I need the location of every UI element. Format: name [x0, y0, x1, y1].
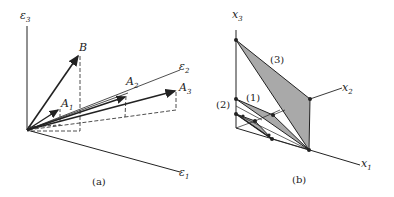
figure-a-labels: ε3 ε2 ε1 B A1 A2 A3 (a) — [20, 9, 192, 187]
label-x3: x3 — [232, 8, 243, 23]
label-x2: x2 — [342, 81, 353, 96]
label-A3: A3 — [178, 81, 192, 96]
label-e3: ε3 — [20, 9, 31, 24]
label-B: B — [78, 41, 87, 54]
vertex — [270, 137, 274, 141]
axis-x2 — [310, 88, 342, 99]
label-region-1: (1) — [246, 92, 260, 103]
label-e1: ε1 — [179, 166, 189, 181]
vertex — [241, 114, 244, 117]
diagram-canvas: ε3 ε2 ε1 B A1 A2 A3 (a) — [0, 0, 394, 197]
vertex — [308, 97, 312, 101]
axis-e1 — [27, 130, 180, 172]
vertex — [267, 133, 270, 136]
label-region-2: (2) — [216, 99, 230, 110]
label-x1: x1 — [361, 157, 372, 172]
label-e2: ε2 — [179, 60, 190, 75]
label-A2: A2 — [125, 75, 139, 90]
label-A1: A1 — [60, 97, 73, 112]
caption-a: (a) — [92, 176, 106, 187]
vertex — [307, 148, 311, 152]
vertex — [253, 119, 257, 123]
vertex — [234, 97, 238, 101]
vector-extra — [27, 93, 128, 130]
axis-e2 — [27, 70, 180, 130]
vertex — [271, 113, 275, 117]
projection-A3 — [125, 92, 176, 117]
vertex — [234, 112, 238, 116]
figure-a — [27, 26, 180, 172]
vector-A2 — [27, 97, 125, 130]
label-region-3: (3) — [270, 54, 284, 65]
caption-b: (b) — [292, 174, 306, 185]
vertex — [234, 38, 238, 42]
